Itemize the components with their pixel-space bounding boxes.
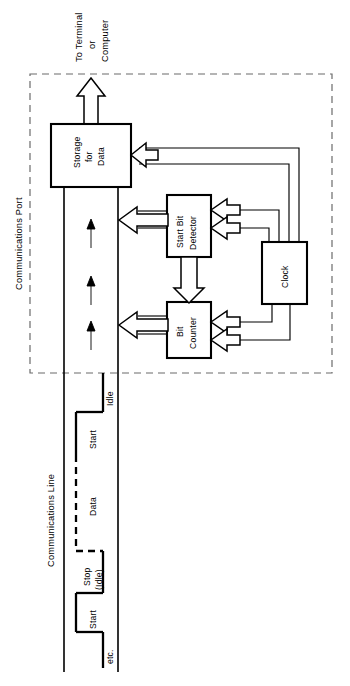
communications-port-label: Communications Port [14,197,24,290]
detector-block-label-line1: Start Bit [175,215,185,248]
communications-line-label: Communications Line [46,474,56,567]
arrowhead-into-counter-lower [211,329,240,351]
data-flow-arrows [87,219,95,350]
clock-block-label: Clock [280,265,290,288]
waveform-label-data: Data [88,497,98,516]
detector-block-label-line2: Detector [188,216,198,250]
waveform-label-idle: Idle [105,391,115,406]
storage-block-label-line3: Data [96,147,106,166]
arrowhead-into-detector-lower [211,217,240,239]
waveform-label-stop-idle: (Idle) [94,569,104,590]
waveform-label-etc: etc. [105,649,115,664]
waveform-label-start-2: Start [88,609,98,629]
detector-to-counter-arrow [174,257,204,303]
waveform-label-stop: Stop [82,568,92,586]
counter-block-label-line1: Bit [175,326,185,337]
destination-label-line1: To Terminal [74,12,84,62]
destination-label-line2: or [87,40,97,49]
block-diagram-figure: To Terminal or Computer Communications P… [0,0,350,686]
storage-block-label-line1: Storage [72,136,82,168]
destination-label-line3: Computer [100,20,110,62]
output-arrow-to-terminal [77,78,105,124]
counter-block-label-line2: Counter [188,317,198,349]
arrowhead-into-storage-upper [131,143,158,167]
storage-block-label-line2: for [84,151,94,162]
waveform-label-start-1: Start [88,429,98,449]
